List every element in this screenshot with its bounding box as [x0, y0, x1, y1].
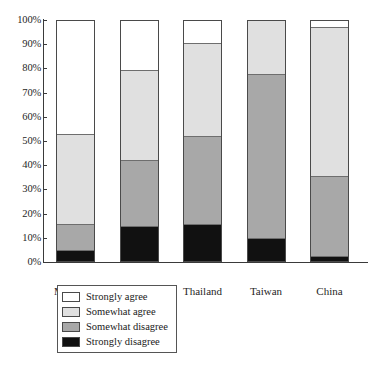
- y-axis-tick-label: 90%: [1, 39, 41, 49]
- legend-item[interactable]: Somewhat disagree: [62, 319, 172, 334]
- bar-segment[interactable]: [248, 75, 285, 239]
- x-axis-category-label: Thailand: [171, 285, 234, 298]
- bar-segment[interactable]: [311, 177, 348, 257]
- legend-item[interactable]: Strongly disagree: [62, 334, 172, 349]
- legend-item[interactable]: Somewhat agree: [62, 304, 172, 319]
- legend-swatch: [62, 292, 80, 302]
- stacked-bar[interactable]: [310, 20, 349, 262]
- y-axis-tick-label: 70%: [1, 88, 41, 98]
- bar-segment[interactable]: [57, 135, 94, 225]
- x-axis-line: [43, 262, 368, 263]
- bar-segment[interactable]: [311, 257, 348, 261]
- bar-group: [247, 20, 286, 262]
- stacked-bar-chart: 0%10%20%30%40%50%60%70%80%90%100% Mongol…: [0, 0, 383, 368]
- legend-swatch: [62, 337, 80, 347]
- stacked-bar[interactable]: [247, 20, 286, 262]
- bar-segment[interactable]: [121, 161, 158, 227]
- bar-group: [120, 20, 159, 262]
- y-axis-tick-label: 40%: [1, 160, 41, 170]
- bar-segment[interactable]: [248, 239, 285, 261]
- x-axis-category-label: Taiwan: [235, 285, 298, 298]
- y-axis-tick-label: 80%: [1, 63, 41, 73]
- bar-segment[interactable]: [121, 71, 158, 161]
- legend-swatch: [62, 307, 80, 317]
- bar-segment[interactable]: [184, 21, 221, 44]
- plot-area: MongoliaPhilippinesThailandTaiwanChina: [44, 20, 364, 262]
- y-axis-tick-label: 50%: [1, 136, 41, 146]
- bar-segment[interactable]: [184, 137, 221, 225]
- bar-segment[interactable]: [121, 21, 158, 71]
- x-axis-category-label: China: [298, 285, 361, 298]
- stacked-bar[interactable]: [183, 20, 222, 262]
- y-axis-tick-label: 10%: [1, 233, 41, 243]
- bar-segment[interactable]: [121, 227, 158, 261]
- legend-label: Somewhat disagree: [86, 321, 168, 332]
- stacked-bar[interactable]: [120, 20, 159, 262]
- y-axis-tick-label: 20%: [1, 209, 41, 219]
- y-axis-tick-label: 0%: [1, 257, 41, 267]
- legend-label: Strongly disagree: [86, 336, 160, 347]
- legend-swatch: [62, 322, 80, 332]
- bar-group: [183, 20, 222, 262]
- bar-segment[interactable]: [311, 21, 348, 28]
- stacked-bar[interactable]: [56, 20, 95, 262]
- chart-legend: Strongly agreeSomewhat agreeSomewhat dis…: [57, 285, 177, 353]
- bar-segment[interactable]: [248, 21, 285, 75]
- bar-segment[interactable]: [184, 44, 221, 138]
- bar-segment[interactable]: [311, 28, 348, 177]
- y-axis-tick-label: 60%: [1, 112, 41, 122]
- y-axis-tick-mark: [43, 262, 47, 263]
- legend-item[interactable]: Strongly agree: [62, 289, 172, 304]
- bar-segment[interactable]: [57, 225, 94, 251]
- bar-segment[interactable]: [184, 225, 221, 261]
- bar-segment[interactable]: [57, 21, 94, 135]
- bar-group: [310, 20, 349, 262]
- bar-group: [56, 20, 95, 262]
- y-axis-tick-label: 30%: [1, 184, 41, 194]
- y-axis-tick-label: 100%: [1, 15, 41, 25]
- bar-segment[interactable]: [57, 251, 94, 261]
- legend-label: Somewhat agree: [86, 306, 156, 317]
- legend-label: Strongly agree: [86, 291, 148, 302]
